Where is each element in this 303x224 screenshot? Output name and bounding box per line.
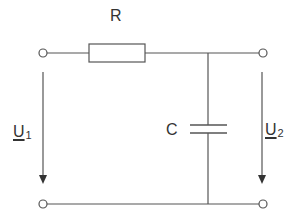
capacitor-label: C	[166, 122, 178, 138]
input-voltage-symbol: U	[13, 123, 25, 140]
terminal-bottom-left	[39, 200, 47, 208]
circuit-schematic	[0, 0, 303, 224]
terminal-bottom-right	[259, 200, 267, 208]
input-voltage-label: U1	[13, 124, 32, 141]
resistor-symbol	[89, 44, 145, 62]
terminal-top-right	[259, 49, 267, 57]
arrow-down-icon	[39, 175, 47, 184]
resistor-label: R	[110, 8, 122, 24]
input-voltage-subscript: 1	[26, 129, 32, 141]
output-voltage-subscript: 2	[278, 127, 284, 139]
output-voltage-symbol: U	[265, 121, 277, 138]
terminal-top-left	[39, 49, 47, 57]
arrow-down-icon	[258, 175, 266, 184]
circuit-diagram: R C U1 U2	[0, 0, 303, 224]
output-voltage-label: U2	[265, 122, 284, 139]
